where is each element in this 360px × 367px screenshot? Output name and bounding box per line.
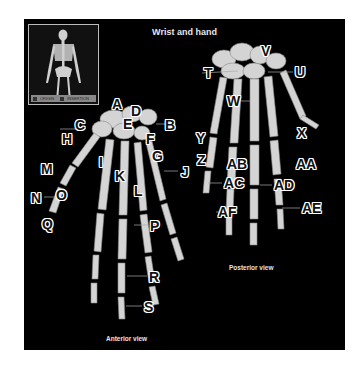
label-K: K	[115, 169, 125, 183]
label-N: N	[31, 191, 41, 205]
label-Z: Z	[197, 153, 206, 167]
label-AC: AC	[224, 176, 244, 190]
label-D: D	[131, 104, 141, 118]
label-E: E	[123, 117, 132, 131]
posterior-view-caption: Posterior view	[229, 264, 273, 271]
label-L: L	[134, 184, 143, 198]
label-P: P	[150, 219, 159, 233]
label-U: U	[295, 65, 305, 79]
label-V: V	[261, 44, 270, 58]
label-R: R	[149, 270, 159, 284]
label-Y: Y	[196, 131, 205, 145]
label-AE: AE	[302, 201, 321, 215]
label-S: S	[144, 300, 153, 314]
label-O: O	[56, 188, 67, 202]
label-C: C	[75, 118, 85, 132]
label-B: B	[165, 118, 175, 132]
label-M: M	[41, 162, 53, 176]
label-F: F	[146, 132, 155, 146]
label-AB: AB	[227, 157, 247, 171]
label-T: T	[204, 66, 213, 80]
figure-panel: ORIGIN INSERTION Wrist and hand	[24, 19, 345, 350]
label-AA: AA	[296, 157, 316, 171]
label-I: I	[99, 155, 103, 169]
label-J: J	[181, 165, 189, 179]
label-AD: AD	[274, 178, 294, 192]
anterior-view-caption: Anterior view	[106, 335, 147, 342]
label-AF: AF	[218, 205, 237, 219]
label-X: X	[297, 126, 306, 140]
label-G: G	[152, 149, 163, 163]
label-A: A	[112, 97, 122, 111]
label-H: H	[62, 132, 72, 146]
label-Q: Q	[42, 217, 53, 231]
label-W: W	[227, 94, 240, 108]
